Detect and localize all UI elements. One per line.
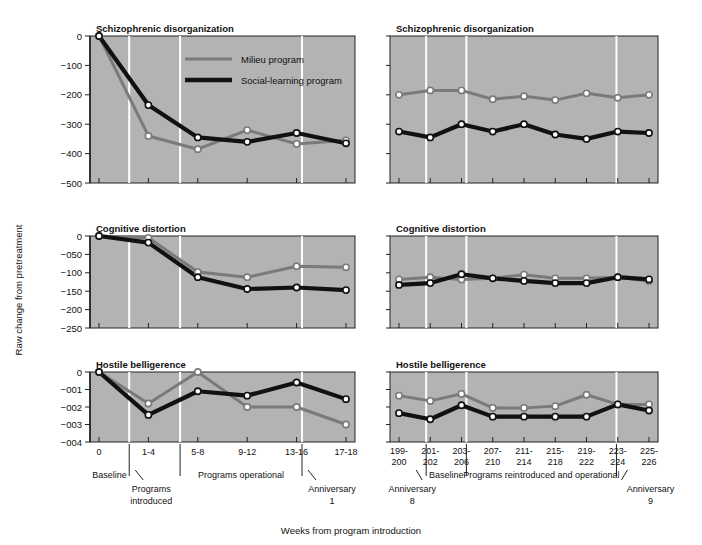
hostile-right-series-1-marker-8: [646, 407, 652, 413]
schizophrenic-right-title: Schizophrenic disorganization: [396, 23, 534, 34]
annotation-left-anniversary-1-line1: Anniversary: [308, 484, 356, 494]
legend-label-1: Social-learning program: [241, 75, 342, 86]
xtick-label-left-0: 0: [96, 447, 101, 457]
hostile-left-series-1-marker-2: [195, 388, 201, 394]
y-axis-title: Raw change from pretreatment: [13, 224, 24, 355]
figure-container: Schizophrenic disorganization0−100−200−3…: [0, 0, 702, 545]
schizophrenic-left-series-0-marker-1: [145, 133, 151, 139]
schizophrenic-right-series-1-marker-5: [552, 131, 558, 137]
cognitive-right-y-ticks: [386, 236, 390, 328]
schizophrenic-left-ytick-label-1: −100: [61, 60, 82, 71]
cognitive-left-series-1-marker-0: [96, 233, 102, 239]
schizophrenic-right-plot-area: [390, 36, 658, 183]
xtick-label-right-1-line2: 202: [423, 457, 438, 467]
schizophrenic-right-series-1-marker-8: [646, 130, 652, 136]
cognitive-left-series-1-marker-4: [294, 284, 300, 290]
schizophrenic-left-series-1-marker-0: [96, 33, 102, 39]
hostile-right-series-1-marker-0: [396, 410, 402, 416]
cognitive-right-series-0-marker-4: [521, 272, 527, 278]
xtick-label-right-7-line2: 224: [610, 457, 625, 467]
cognitive-left-ytick-label-5: −250: [61, 323, 82, 334]
schizophrenic-right-series-1-marker-0: [396, 128, 402, 134]
schizophrenic-left-ytick-label-0: 0: [77, 31, 82, 42]
xtick-label-right-4-line2: 214: [516, 457, 531, 467]
annotation-left-programs-introduced-line2: introduced: [130, 496, 172, 506]
schizophrenic-right-series-1-marker-7: [615, 128, 621, 134]
schizophrenic-right-series-1-marker-2: [458, 121, 464, 127]
cognitive-right-series-1-marker-0: [396, 282, 402, 288]
annotation-left-anniversary1-leader: [308, 470, 316, 480]
hostile-right-series-1-marker-5: [552, 414, 558, 420]
hostile-right-series-0-marker-4: [521, 405, 527, 411]
schizophrenic-left-ytick-label-5: −500: [61, 178, 82, 189]
hostile-right-series-0-marker-0: [396, 393, 402, 399]
schizophrenic-left-series-1-marker-5: [343, 140, 349, 146]
schizophrenic-right-series-0-marker-0: [396, 92, 402, 98]
schizophrenic-left-y-axis: 0−100−200−300−400−500: [61, 31, 90, 189]
hostile-left-y-axis: 0−001−002−003−004: [61, 367, 90, 448]
xtick-label-right-8-line2: 226: [641, 457, 656, 467]
xtick-label-left-5: 17-18: [334, 447, 357, 457]
hostile-left-ytick-label-2: −002: [61, 402, 82, 413]
annotation-right-programs-reintroduced-line1: Programs reintroduced and operational: [463, 470, 619, 480]
schizophrenic-left-series-1-marker-2: [195, 134, 201, 140]
hostile-right-series-0-marker-1: [427, 398, 433, 404]
cognitive-left: Cognitive distortion: [90, 223, 355, 328]
schizophrenic-right-series-0-marker-7: [615, 95, 621, 101]
schizophrenic-left-series-1-marker-3: [244, 139, 250, 145]
hostile-left-series-0-marker-1: [145, 400, 151, 406]
xtick-label-right-2-line1: 203-: [452, 446, 470, 456]
hostile-right-series-1-marker-1: [427, 416, 433, 422]
xtick-label-left-3: 9-12: [238, 447, 256, 457]
xtick-label-right-0-line1: 199-: [390, 446, 408, 456]
hostile-left: Hostile belligerence: [90, 359, 355, 442]
schizophrenic-right-series-0-marker-5: [552, 97, 558, 103]
schizophrenic-right-series-1-marker-3: [490, 128, 496, 134]
annotation-left-programs-introduced-line1: Programs: [132, 484, 172, 494]
annotation-right-anniversary9-leader: [621, 470, 627, 480]
schizophrenic-left-ytick-label-4: −400: [61, 148, 82, 159]
cognitive-left-ytick-label-3: −150: [61, 286, 82, 297]
cognitive-left-series-1-marker-1: [145, 240, 151, 246]
xtick-label-left-1: 1-4: [142, 447, 155, 457]
schizophrenic-right-series-0-marker-8: [646, 92, 652, 98]
hostile-left-series-0-marker-4: [294, 404, 300, 410]
cognitive-right: Cognitive distortion: [390, 223, 658, 328]
hostile-right-series-1-marker-4: [521, 414, 527, 420]
cognitive-left-ytick-label-4: −200: [61, 304, 82, 315]
xtick-label-right-8-line1: 225-: [640, 446, 658, 456]
schizophrenic-right-series-1-marker-1: [427, 134, 433, 140]
x-axis-caption-text: Weeks from program introduction: [281, 525, 421, 536]
annotation-left-baseline-line1: Baseline: [92, 470, 127, 480]
cognitive-left-series-0-marker-4: [294, 263, 300, 269]
xtick-label-right-3-line1: 207-: [484, 446, 502, 456]
schizophrenic-right-series-0-marker-4: [521, 93, 527, 99]
hostile-right-series-1-marker-2: [458, 402, 464, 408]
cognitive-left-series-0-marker-3: [244, 274, 250, 280]
hostile-left-series-1-marker-3: [244, 393, 250, 399]
cognitive-left-series-1-marker-3: [244, 286, 250, 292]
cognitive-right-series-1-marker-2: [458, 271, 464, 277]
schizophrenic-left: Schizophrenic disorganization: [90, 23, 355, 183]
hostile-right-series-1-marker-6: [583, 414, 589, 420]
cognitive-right-series-1-marker-4: [521, 278, 527, 284]
xtick-label-right-5-line2: 218: [548, 457, 563, 467]
xtick-label-right-6-line1: 219-: [577, 446, 595, 456]
hostile-right-series-0-marker-3: [490, 405, 496, 411]
annotation-right-baseline-line1: Baseline: [429, 470, 464, 480]
hostile-right: Hostile belligerence: [390, 359, 658, 442]
cognitive-left-ytick-label-0: 0: [77, 231, 82, 242]
schizophrenic-left-series-0-marker-2: [195, 146, 201, 152]
xtick-label-right-5-line1: 215-: [546, 446, 564, 456]
annotation-right-anniversary-9-line1: Anniversary: [627, 484, 675, 494]
xtick-label-right-1-line1: 201-: [421, 446, 439, 456]
hostile-right-series-0-marker-5: [552, 403, 558, 409]
annotation-right-anniversary-9-line2: 9: [648, 496, 653, 506]
hostile-right-series-1-marker-7: [615, 401, 621, 407]
hostile-right-title: Hostile belligerence: [396, 359, 486, 370]
x-tick-labels-left: 01-45-89-1213-1617-18: [96, 447, 357, 457]
y-axis-title-text: Raw change from pretreatment: [13, 224, 24, 355]
xtick-label-right-0-line2: 200: [391, 457, 406, 467]
hostile-right-series-0-marker-8: [646, 401, 652, 407]
schizophrenic-right-y-ticks: [386, 36, 390, 183]
